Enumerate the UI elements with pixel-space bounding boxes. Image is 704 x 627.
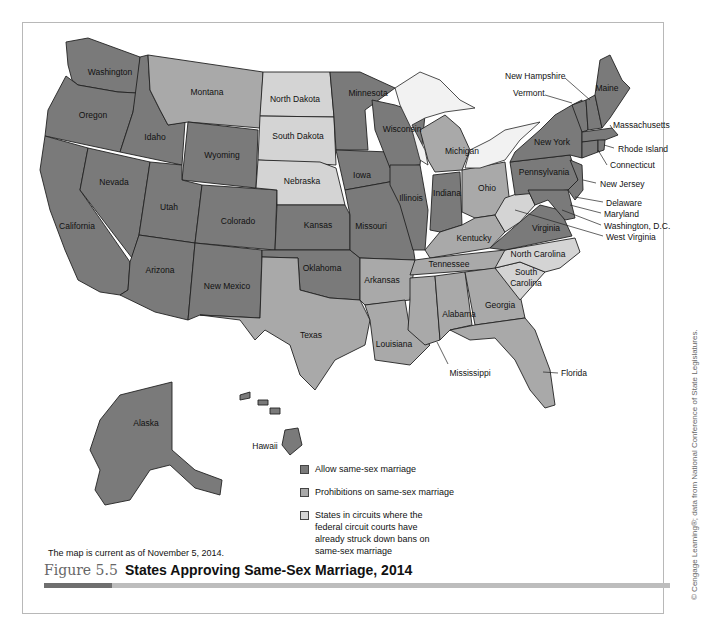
legend-label-circuit: States in circuits where the federal cir…	[315, 509, 445, 557]
label-texas: Texas	[300, 330, 322, 340]
legend-label-prohib: Prohibitions on same-sex marriage	[315, 486, 465, 498]
label-wyoming: Wyoming	[204, 150, 239, 160]
label-minnesota: Minnesota	[348, 88, 387, 98]
label-maryland: Maryland	[604, 209, 639, 219]
label-mississippi: Mississippi	[449, 368, 490, 378]
label-colorado: Colorado	[221, 216, 256, 226]
label-new-jersey: New Jersey	[600, 179, 644, 189]
figure-title: States Approving Same-Sex Marriage, 2014	[125, 562, 412, 578]
label-california: California	[59, 221, 95, 231]
label-wisconsin: Wisconsin	[383, 124, 422, 134]
label-rhode-island: Rhode Island	[618, 144, 668, 154]
legend-item-circuit: States in circuits where the federal cir…	[300, 509, 465, 557]
label-nebraska: Nebraska	[284, 176, 320, 186]
label-south-dakota: South Dakota	[272, 131, 324, 141]
label-connecticut: Connecticut	[610, 160, 655, 170]
figure-caption: Figure 5.5 States Approving Same-Sex Mar…	[44, 562, 412, 578]
state-rhode-island	[598, 140, 605, 152]
label-north-dakota: North Dakota	[270, 94, 320, 104]
label-new-hampshire: New Hampshire	[505, 71, 565, 81]
label-vermont: Vermont	[513, 88, 545, 98]
state-hawaii	[282, 428, 302, 455]
label-pennsylvania: Pennsylvania	[519, 167, 570, 177]
label-iowa: Iowa	[353, 170, 371, 180]
label-south-carolina: South Carolina	[510, 267, 542, 289]
caption-rule	[44, 583, 670, 588]
legend-item-prohib: Prohibitions on same-sex marriage	[300, 486, 465, 498]
label-north-carolina: North Carolina	[511, 249, 566, 259]
caption-rule-accent	[44, 583, 112, 588]
label-delaware: Delaware	[606, 198, 642, 208]
label-new-mexico: New Mexico	[204, 281, 250, 291]
legend-label-allow: Allow same-sex marriage	[315, 463, 465, 475]
state-indiana	[430, 172, 462, 232]
legend-swatch-allow	[300, 465, 309, 474]
state-florida	[450, 318, 555, 408]
label-oklahoma: Oklahoma	[303, 263, 342, 273]
label-virginia: Virginia	[532, 223, 560, 233]
label-alaska: Alaska	[133, 418, 159, 428]
label-florida: Florida	[561, 368, 587, 378]
label-georgia: Georgia	[485, 300, 515, 310]
label-west-virginia: West Virginia	[606, 232, 656, 242]
label-maine: Maine	[595, 83, 618, 93]
state-alaska	[90, 382, 222, 505]
label-arkansas: Arkansas	[364, 275, 399, 285]
source-credit: © Cengage Learning®; data from National …	[690, 329, 699, 600]
label-ohio: Ohio	[478, 183, 496, 193]
label-louisiana: Louisiana	[376, 339, 412, 349]
label-missouri: Missouri	[355, 221, 387, 231]
state-connecticut	[582, 140, 598, 158]
label-michigan: Michigan	[445, 146, 479, 156]
label-kansas: Kansas	[304, 220, 332, 230]
label-kentucky: Kentucky	[457, 233, 492, 243]
label-indiana: Indiana	[433, 188, 461, 198]
state-hawaii-islands	[240, 392, 280, 414]
label-illinois: Illinois	[399, 193, 423, 203]
legend-item-allow: Allow same-sex marriage	[300, 463, 465, 475]
label-alabama: Alabama	[442, 309, 476, 319]
legend-swatch-circuit	[300, 511, 309, 520]
figure-number: Figure 5.5	[44, 562, 118, 578]
label-new-york: New York	[534, 137, 570, 147]
label-massachusetts: Massachusetts	[613, 120, 670, 130]
label-idaho: Idaho	[144, 132, 165, 142]
label-montana: Montana	[190, 87, 223, 97]
label-tennessee: Tennessee	[428, 259, 469, 269]
label-washington: Washington	[88, 67, 133, 77]
map-date-note: The map is current as of November 5, 201…	[48, 548, 224, 558]
label-arizona: Arizona	[146, 265, 175, 275]
label-nevada: Nevada	[99, 177, 128, 187]
label-washington-dc: Washington, D.C.	[604, 221, 670, 231]
label-oregon: Oregon	[79, 110, 107, 120]
state-mississippi	[408, 276, 440, 345]
label-hawaii: Hawaii	[252, 441, 278, 451]
legend: Allow same-sex marriage Prohibitions on …	[300, 463, 465, 568]
legend-swatch-prohib	[300, 488, 309, 497]
label-utah: Utah	[160, 202, 178, 212]
